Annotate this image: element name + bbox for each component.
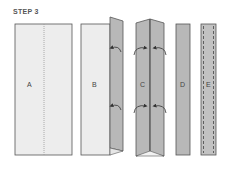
panel-label-e: E (206, 81, 211, 88)
panel-a (15, 24, 72, 155)
panel-d (176, 24, 190, 155)
panel-label-d: D (180, 81, 185, 88)
panel-c (134, 19, 166, 156)
panel-label-a: A (27, 81, 32, 88)
panel-b (81, 17, 123, 155)
panel-label-b: B (92, 81, 97, 88)
panel-e (201, 24, 216, 155)
panel-label-c: C (140, 81, 145, 88)
folded-flap (110, 17, 123, 151)
